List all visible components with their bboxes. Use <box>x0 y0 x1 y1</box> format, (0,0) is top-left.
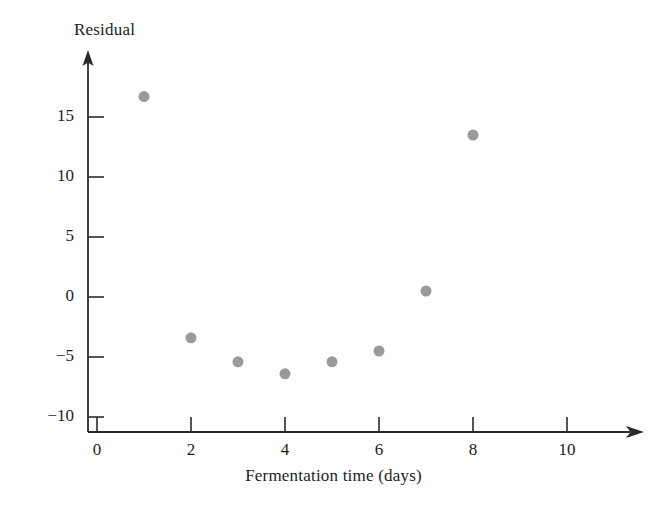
y-axis-tick-label: −10 <box>14 406 74 426</box>
data-point <box>280 368 291 379</box>
y-axis-ticks <box>88 117 104 417</box>
x-axis-tick-label: 8 <box>453 440 493 460</box>
y-axis-tick-label: 15 <box>14 106 74 126</box>
data-point-series <box>139 91 479 379</box>
plot-area <box>0 0 667 506</box>
x-axis-tick-label: 10 <box>547 440 587 460</box>
data-point <box>186 332 197 343</box>
x-axis-tick-label: 6 <box>359 440 399 460</box>
x-axis-ticks <box>97 417 567 432</box>
data-point <box>233 356 244 367</box>
data-point <box>374 346 385 357</box>
y-axis-tick-label: −5 <box>14 346 74 366</box>
y-axis-tick-label: 5 <box>14 226 74 246</box>
axis-lines <box>83 50 645 438</box>
y-axis-tick-label: 0 <box>14 286 74 306</box>
x-axis-tick-label: 4 <box>265 440 305 460</box>
data-point <box>139 91 150 102</box>
data-point <box>327 356 338 367</box>
residual-scatter-chart: Residual Fermentation time (days) 151050… <box>0 0 667 506</box>
y-axis-tick-label: 10 <box>14 166 74 186</box>
data-point <box>421 286 432 297</box>
x-axis-tick-label: 2 <box>171 440 211 460</box>
data-point <box>468 130 479 141</box>
x-axis-tick-label: 0 <box>77 440 117 460</box>
